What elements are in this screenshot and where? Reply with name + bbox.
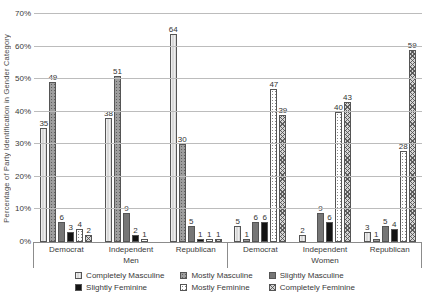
- bar-value-label: 4: [392, 220, 396, 229]
- bar-slot: 6: [252, 213, 259, 242]
- bar-slot: 5: [382, 217, 389, 242]
- bar-slot: 6: [58, 213, 65, 242]
- bar-slightly-feminine: [132, 235, 139, 242]
- bar-completely-masculine: [364, 232, 371, 242]
- axis-divider-right: [421, 242, 422, 268]
- bar-slot: 43: [344, 93, 351, 242]
- bar-slot: 1: [206, 230, 213, 242]
- bar-slightly-feminine: [197, 239, 204, 242]
- grouped-bar-chart: Percentage of Party Identification in Ge…: [0, 0, 430, 304]
- legend-swatch-icon: [269, 284, 276, 291]
- bar-value-label: 5: [236, 217, 240, 226]
- gridline-40%: [34, 111, 422, 112]
- bar-mostly-feminine: [141, 239, 148, 242]
- bar-slot: 6: [261, 213, 268, 242]
- bar-value-label: 6: [327, 213, 331, 222]
- bar-slot: 47: [270, 80, 277, 242]
- category-label-row: DemocratIndependentRepublicanDemocratInd…: [34, 245, 422, 255]
- bar-value-label: 1: [216, 230, 220, 239]
- bar-value-label: 3: [69, 223, 73, 232]
- legend-item-mostly-masculine: Mostly Masculine: [180, 271, 252, 280]
- bar-mostly-masculine: [49, 82, 56, 242]
- bar-mostly-feminine: [270, 89, 277, 242]
- bar-value-label: 6: [263, 213, 267, 222]
- bar-slot: 9: [317, 204, 324, 242]
- legend-label: Mostly Feminine: [191, 283, 249, 292]
- bar-slot: 51: [114, 67, 121, 242]
- bar-slot: 6: [326, 213, 333, 242]
- bar-slot: 28: [400, 142, 407, 242]
- category-label: Democrat: [228, 245, 293, 255]
- bar-value-label: 1: [198, 230, 202, 239]
- bar-mostly-feminine: [76, 229, 83, 242]
- bar-slightly-masculine: [252, 222, 259, 242]
- bar-value-label: 6: [60, 213, 64, 222]
- bar-value-label: 47: [269, 80, 278, 89]
- bar-slot: 1: [243, 230, 250, 242]
- bar-mostly-masculine: [179, 144, 186, 242]
- bar-slot: 1: [373, 230, 380, 242]
- y-tick-label: 30%: [15, 140, 31, 148]
- axis-divider-middle: [227, 242, 228, 268]
- legend-swatch-icon: [180, 284, 187, 291]
- legend-swatch-icon: [75, 272, 82, 279]
- category-group-label-row: MenWomen: [34, 256, 422, 266]
- bar-slot: 5: [234, 217, 241, 242]
- bar-slightly-feminine: [391, 229, 398, 242]
- bar-value-label: 64: [169, 25, 178, 34]
- bar-slightly-masculine: [382, 226, 389, 242]
- bar-slot: 35: [40, 119, 47, 242]
- legend-label: Mostly Masculine: [191, 271, 252, 280]
- bar-value-label: 6: [254, 213, 258, 222]
- legend-label: Slightly Feminine: [86, 283, 147, 292]
- bar-value-label: 2: [87, 226, 91, 235]
- bar-slot: 40: [335, 103, 342, 242]
- bar-mostly-feminine: [335, 112, 342, 242]
- bar-value-label: 2: [300, 226, 304, 235]
- y-tick-label: 10%: [15, 205, 31, 213]
- legend-label: Slightly Masculine: [280, 271, 344, 280]
- gridline-70%: [34, 13, 422, 14]
- legend-item-completely-masculine: Completely Masculine: [75, 271, 164, 280]
- legend-label: Completely Feminine: [280, 283, 355, 292]
- y-tick-label: 50%: [15, 75, 31, 83]
- gridline-30%: [34, 143, 422, 144]
- y-tick-label: 0%: [19, 238, 31, 246]
- bar-value-label: 3: [365, 223, 369, 232]
- gridline-60%: [34, 46, 422, 47]
- bar-value-label: 5: [189, 217, 193, 226]
- bar-value-label: 1: [374, 230, 378, 239]
- legend-item-slightly-feminine: Slightly Feminine: [75, 283, 164, 292]
- bar-value-label: 35: [39, 119, 48, 128]
- legend-swatch-icon: [269, 272, 276, 279]
- bar-completely-masculine: [40, 128, 47, 242]
- bar-slot: 2: [85, 226, 92, 242]
- bar-slot: 59: [409, 41, 416, 242]
- bar-slot: 2: [299, 226, 306, 242]
- bar-mostly-masculine: [243, 239, 250, 242]
- bar-slot: 30: [179, 135, 186, 242]
- bar-mostly-feminine: [400, 151, 407, 242]
- bar-completely-masculine: [299, 235, 306, 242]
- bar-slot: 1: [141, 230, 148, 242]
- legend: Completely MasculineMostly MasculineSlig…: [0, 271, 430, 292]
- bar-completely-feminine: [279, 115, 286, 242]
- axis-divider-left: [33, 242, 34, 268]
- bar-value-label: 1: [207, 230, 211, 239]
- gridline-10%: [34, 208, 422, 209]
- plot-area: 3549634238519216430511151664739296404331…: [34, 14, 422, 243]
- bar-slightly-feminine: [326, 222, 333, 242]
- bar-completely-feminine: [344, 102, 351, 242]
- bar-slot: 49: [49, 73, 56, 242]
- bar-slot: 5: [188, 217, 195, 242]
- category-label: Republican: [357, 245, 422, 255]
- y-tick-label: 40%: [15, 108, 31, 116]
- legend-item-slightly-masculine: Slightly Masculine: [269, 271, 355, 280]
- legend-swatch-icon: [180, 272, 187, 279]
- bar-slot: 4: [391, 220, 398, 242]
- category-label: Independent: [99, 245, 164, 255]
- bar-slightly-masculine: [58, 222, 65, 242]
- bar-slightly-feminine: [67, 232, 74, 242]
- bar-mostly-masculine: [373, 239, 380, 242]
- bar-slightly-masculine: [123, 213, 130, 242]
